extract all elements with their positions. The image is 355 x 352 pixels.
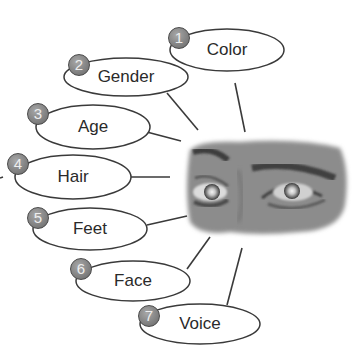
connector-line — [187, 237, 210, 269]
number-badge: 1 — [168, 27, 190, 49]
attribute-hair — [15, 155, 170, 199]
number-badge: 5 — [27, 207, 49, 229]
label-ellipse — [76, 261, 190, 301]
connector-layer — [0, 0, 355, 352]
label-ellipse — [15, 155, 131, 199]
eyes-image — [187, 141, 347, 234]
connector-line — [235, 83, 245, 132]
attribute-diagram: Color1Gender2Age3Hair4Feet5Face6Voice7 — [0, 0, 355, 352]
connector-line — [227, 248, 242, 305]
attribute-feet — [33, 208, 187, 250]
number-badge: 2 — [68, 54, 90, 76]
number-badge: 3 — [27, 103, 49, 125]
attribute-age — [36, 105, 181, 149]
edge-tick-mark — [0, 177, 3, 178]
connector-line — [147, 216, 187, 225]
number-badge: 4 — [7, 153, 29, 175]
label-ellipse — [33, 208, 147, 250]
number-badge: 7 — [138, 305, 160, 327]
number-badge: 6 — [70, 258, 92, 280]
label-ellipse — [36, 105, 150, 149]
connector-line — [167, 93, 198, 130]
